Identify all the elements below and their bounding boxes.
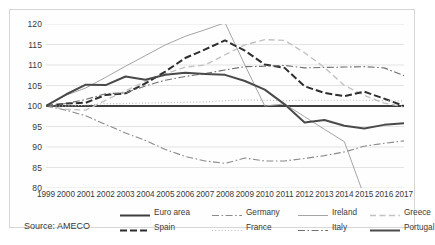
legend-label: Euro area <box>154 208 190 218</box>
line-chart-svg <box>46 24 404 188</box>
x-axis: 1999200020012002200320042005200620072008… <box>46 190 404 203</box>
x-tick-label: 2003 <box>116 190 134 200</box>
series-line-spain <box>46 40 404 106</box>
legend-item-germany[interactable]: Germany <box>212 206 280 219</box>
legend-item-euro-area[interactable]: Euro area <box>120 206 190 219</box>
x-tick-label: 2006 <box>176 190 194 200</box>
legend-swatch-icon <box>120 207 150 218</box>
legend-label: Portugal <box>404 223 435 233</box>
legend-swatch-icon <box>298 207 328 218</box>
chart-figure: 12011511010510095908580 1999200020012002… <box>9 9 415 228</box>
source-note: Source: AMECO <box>24 221 90 231</box>
legend-label: Italy <box>332 223 347 233</box>
x-tick-label: 2016 <box>375 190 393 200</box>
legend-swatch-icon <box>298 222 328 233</box>
y-tick-label: 115 <box>28 41 42 50</box>
x-tick-label: 2004 <box>136 190 154 200</box>
y-tick-label: 95 <box>32 123 42 132</box>
y-tick-label: 105 <box>28 82 42 91</box>
x-tick-label: 2015 <box>355 190 373 200</box>
legend-label: Germany <box>246 208 280 218</box>
legend-swatch-icon <box>212 207 242 218</box>
legend-item-italy[interactable]: Italy <box>298 221 347 234</box>
y-tick-label: 90 <box>32 143 42 152</box>
legend-item-spain[interactable]: Spain <box>120 221 175 234</box>
legend-item-greece[interactable]: Greece <box>370 206 431 219</box>
x-tick-label: 2017 <box>395 190 413 200</box>
legend-label: Ireland <box>332 208 357 218</box>
legend-label: France <box>246 223 271 233</box>
x-tick-label: 2010 <box>256 190 274 200</box>
x-tick-label: 2001 <box>77 190 95 200</box>
y-tick-label: 85 <box>32 164 42 173</box>
x-tick-label: 2005 <box>156 190 174 200</box>
y-tick-label: 110 <box>28 61 42 70</box>
legend-swatch-icon <box>370 207 400 218</box>
x-tick-label: 2002 <box>97 190 115 200</box>
legend-item-france[interactable]: France <box>212 221 271 234</box>
legend-label: Spain <box>154 223 175 233</box>
x-tick-label: 2012 <box>295 190 313 200</box>
x-tick-label: 2009 <box>236 190 254 200</box>
x-tick-label: 2014 <box>335 190 353 200</box>
legend-label: Greece <box>404 208 431 218</box>
y-axis: 12011511010510095908580 <box>10 24 44 188</box>
legend-swatch-icon <box>212 222 242 233</box>
series-line-germany <box>46 106 404 163</box>
y-tick-label: 120 <box>28 20 42 29</box>
legend-swatch-icon <box>370 222 400 233</box>
x-tick-label: 2008 <box>216 190 234 200</box>
plot-area <box>46 24 404 188</box>
x-tick-label: 2000 <box>57 190 75 200</box>
x-tick-label: 1999 <box>37 190 55 200</box>
y-tick-label: 100 <box>28 102 42 111</box>
legend-item-portugal[interactable]: Portugal <box>370 221 435 234</box>
chart-legend: Euro areaGermanyIrelandGreeceSpainFrance… <box>120 206 416 238</box>
x-tick-label: 2007 <box>196 190 214 200</box>
legend-swatch-icon <box>120 222 150 233</box>
x-tick-label: 2013 <box>315 190 333 200</box>
legend-item-ireland[interactable]: Ireland <box>298 206 357 219</box>
x-tick-label: 2011 <box>276 190 294 200</box>
